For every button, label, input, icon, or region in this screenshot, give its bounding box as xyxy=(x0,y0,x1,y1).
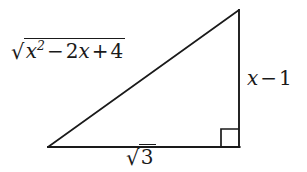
base-radical-expression: √3 xyxy=(126,144,156,168)
right-triangle-figure: √x2−2x+4 x−1 √3 xyxy=(0,0,307,172)
vertical-leg-operator: − xyxy=(258,66,279,90)
radicand-group: x2−2x+4 xyxy=(24,38,125,61)
radicand-term2-variable: x xyxy=(78,39,89,63)
vertical-leg-constant: 1 xyxy=(279,66,292,90)
label-vertical-leg: x−1 xyxy=(247,68,292,88)
radicand-operator-1: − xyxy=(45,39,66,63)
radicand-variable: x xyxy=(26,39,37,63)
base-radical-sign-icon: √ xyxy=(126,148,139,169)
radical-sign-icon: √ xyxy=(11,42,24,63)
label-hypotenuse: √x2−2x+4 xyxy=(11,38,125,62)
vertical-leg-variable: x xyxy=(247,66,258,90)
base-radicand: 3 xyxy=(139,144,156,167)
radicand-operator-2: + xyxy=(90,39,111,63)
label-base: √3 xyxy=(126,144,156,168)
radical-expression: √x2−2x+4 xyxy=(11,38,125,62)
triangle-hypotenuse-line xyxy=(48,10,239,147)
radicand-term2-coefficient: 2 xyxy=(66,39,79,63)
radicand-exponent: 2 xyxy=(37,38,45,53)
right-angle-marker xyxy=(221,129,239,147)
radicand-term3-constant: 4 xyxy=(110,39,123,63)
